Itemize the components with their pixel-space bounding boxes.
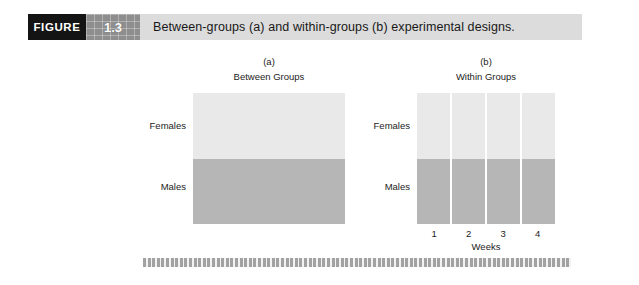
panel-b-title: Within Groups: [417, 71, 555, 82]
panel-b-cell-females-week2: [452, 93, 487, 159]
panel-b-tick-4: 4: [521, 228, 556, 239]
panel-b-tick-2: 2: [452, 228, 487, 239]
panel-b-cell-males-week4: [522, 159, 555, 225]
figure-caption: Between-groups (a) and within-groups (b)…: [140, 14, 582, 40]
panel-a-row-label-males: Males: [118, 181, 186, 192]
panel-b-cell-males-week3: [487, 159, 522, 225]
panel-b-band-males: [417, 159, 555, 225]
panel-b-letter: (b): [417, 56, 555, 67]
ruler-decoration: [143, 258, 571, 267]
panel-a-letter: (a): [193, 56, 345, 67]
figure-label: FIGURE: [28, 14, 86, 40]
panel-a-band-males: [193, 159, 345, 225]
panel-b-cell-females-week3: [487, 93, 522, 159]
panel-b-row-label-females: Females: [342, 120, 410, 131]
panel-b-tick-3: 3: [486, 228, 521, 239]
figure-header-bar: FIGURE 1.3 Between-groups (a) and within…: [28, 14, 582, 40]
panel-a-row-label-females: Females: [118, 120, 186, 131]
panel-a-band-females: [193, 93, 345, 159]
panel-b-cell-females-week4: [522, 93, 555, 159]
panel-a-plot-area: [193, 93, 345, 224]
panel-b-tick-1: 1: [417, 228, 452, 239]
panel-a-title: Between Groups: [193, 71, 345, 82]
panel-b-row-label-males: Males: [342, 181, 410, 192]
panel-b-axis-title: Weeks: [417, 241, 555, 252]
figure-number: 1.3: [86, 14, 140, 40]
panel-b-cell-males-week1: [417, 159, 452, 225]
panel-b-tick-labels: 1 2 3 4: [417, 228, 555, 239]
panel-b-cell-females-week1: [417, 93, 452, 159]
panel-b-plot-area: [417, 93, 555, 224]
panel-b-band-females: [417, 93, 555, 159]
panel-b-cell-males-week2: [452, 159, 487, 225]
